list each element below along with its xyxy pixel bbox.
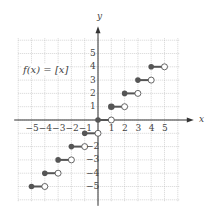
x-tick-label: −2 bbox=[65, 124, 78, 133]
y-axis-label: y bbox=[97, 12, 102, 21]
y-tick-label: 2 bbox=[90, 89, 96, 98]
y-tick-label: −2 bbox=[86, 142, 99, 151]
x-tick-label: 1 bbox=[109, 124, 115, 133]
x-tick-label: −1 bbox=[79, 124, 92, 133]
x-tick-label: −5 bbox=[26, 124, 39, 133]
x-axis-label: x bbox=[199, 115, 204, 124]
y-tick-label: −5 bbox=[86, 182, 99, 191]
x-tick-label: 4 bbox=[149, 124, 155, 133]
x-tick-label: 2 bbox=[122, 124, 128, 133]
y-tick-label: 5 bbox=[90, 49, 96, 58]
y-tick-label: 4 bbox=[90, 62, 96, 71]
function-label: f(x) = [x] bbox=[22, 64, 69, 75]
x-tick-label: 3 bbox=[135, 124, 141, 133]
y-tick-label: −3 bbox=[86, 155, 99, 164]
x-tick-label: −3 bbox=[52, 124, 65, 133]
y-tick-label: −4 bbox=[86, 169, 99, 178]
y-tick-label: 1 bbox=[90, 102, 96, 111]
step-function-graph bbox=[0, 0, 215, 218]
y-tick-label: 3 bbox=[90, 76, 96, 85]
x-tick-label: −4 bbox=[39, 124, 52, 133]
x-tick-label: 5 bbox=[162, 124, 168, 133]
